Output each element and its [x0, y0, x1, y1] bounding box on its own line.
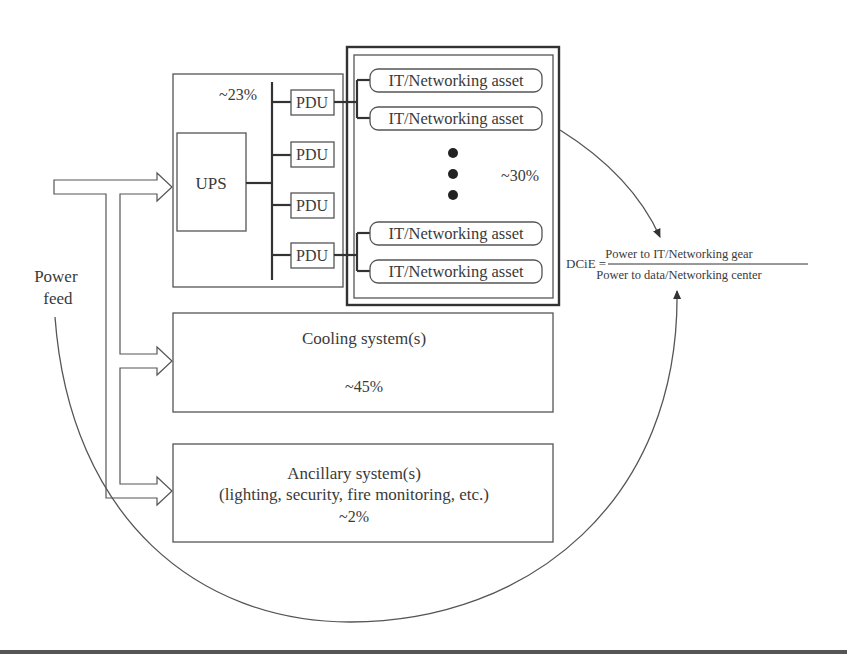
bottom-rule — [0, 650, 847, 654]
ancillary-title: Ancillary system(s) — [287, 464, 421, 483]
pdu-3: PDU — [291, 193, 334, 218]
it-asset-2: IT/Networking asset — [370, 107, 542, 130]
ancillary-percent: ~2% — [339, 508, 369, 525]
it-asset-3: IT/Networking asset — [370, 222, 542, 245]
svg-text:IT/Networking asset: IT/Networking asset — [388, 109, 524, 128]
svg-text:PDU: PDU — [296, 197, 328, 214]
power-feed-arrows — [54, 173, 172, 505]
it-percent: ~30% — [501, 167, 539, 184]
svg-text:IT/Networking asset: IT/Networking asset — [388, 71, 524, 90]
svg-text:PDU: PDU — [296, 247, 328, 264]
ups-percent: ~23% — [219, 86, 257, 103]
cooling-box — [173, 313, 553, 412]
it-asset-1: IT/Networking asset — [370, 69, 542, 92]
dcie-formula: DCiE = Power to IT/Networking gear Power… — [566, 247, 808, 282]
svg-text:PDU: PDU — [296, 94, 328, 111]
cooling-title: Cooling system(s) — [302, 329, 426, 348]
it-to-formula-arrow — [560, 130, 660, 237]
power-feed-label: Power feed — [34, 267, 82, 308]
dcie-power-diagram: Power feed ~23% UPS PDU PDU PDU PDU IT/N… — [0, 0, 847, 664]
cooling-percent: ~45% — [345, 378, 383, 395]
svg-text:IT/Networking asset: IT/Networking asset — [388, 262, 524, 281]
pdu-4: PDU — [291, 243, 334, 268]
formula-numerator: Power to IT/Networking gear — [605, 247, 753, 261]
svg-text:IT/Networking asset: IT/Networking asset — [388, 224, 524, 243]
ups-label: UPS — [195, 174, 226, 193]
formula-denominator: Power to data/Networking center — [596, 268, 762, 282]
ellipsis-dots-icon — [448, 148, 458, 200]
pdu-2: PDU — [291, 142, 334, 167]
it-asset-4: IT/Networking asset — [370, 260, 542, 283]
svg-text:PDU: PDU — [296, 146, 328, 163]
ancillary-subtitle: (lighting, security, fire monitoring, et… — [219, 485, 489, 504]
pdu-1: PDU — [291, 90, 334, 115]
